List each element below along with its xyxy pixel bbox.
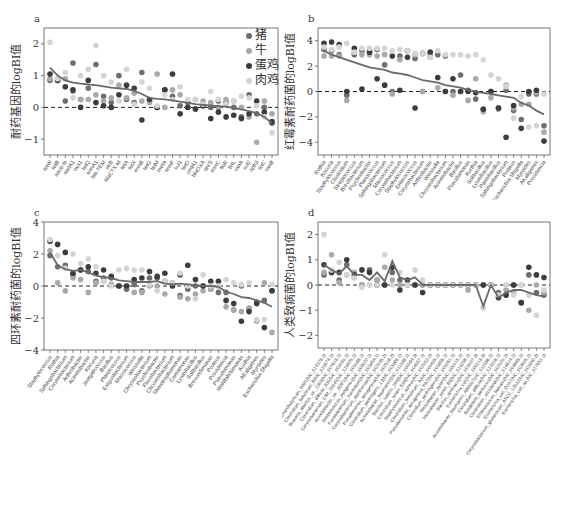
data-point	[139, 79, 145, 85]
data-point	[223, 298, 229, 304]
data-point	[344, 40, 350, 46]
data-point	[405, 54, 411, 60]
data-point	[321, 44, 327, 50]
data-point	[465, 98, 471, 104]
data-point	[526, 124, 532, 130]
data-point	[518, 94, 524, 100]
data-point	[352, 49, 358, 55]
data-point	[162, 87, 168, 93]
data-point	[503, 282, 509, 288]
data-point	[488, 72, 494, 78]
panel-b: b−4−2024红霉素耐药菌的logBI值RothiaKocuriaStaphy…	[282, 0, 564, 200]
data-point	[541, 129, 547, 135]
data-point	[262, 325, 268, 331]
data-point	[231, 113, 237, 119]
data-point	[511, 292, 517, 298]
y-tick-label: 2	[307, 61, 313, 72]
data-point	[389, 282, 395, 288]
data-point	[496, 76, 502, 82]
legend-item-broiler: 肉鸡	[246, 73, 279, 88]
data-point	[443, 52, 449, 58]
legend-item-layer: 蛋鸡	[246, 58, 279, 73]
data-point	[116, 98, 122, 104]
data-point	[435, 85, 441, 91]
y-tick-label: −1	[298, 305, 313, 316]
data-point	[154, 283, 160, 289]
y-tick-label: −2	[298, 111, 313, 122]
data-point	[397, 57, 403, 63]
data-point	[389, 91, 395, 97]
data-point	[193, 106, 199, 112]
data-point	[427, 49, 433, 55]
data-point	[216, 278, 222, 284]
data-point	[108, 79, 114, 85]
data-point	[541, 287, 547, 293]
data-point	[511, 282, 517, 288]
y-tick-label: 0	[307, 86, 313, 97]
data-point	[435, 75, 441, 81]
data-point	[70, 87, 76, 93]
data-point	[450, 93, 456, 99]
data-point	[336, 260, 342, 266]
data-point	[254, 98, 260, 104]
data-point	[85, 78, 91, 84]
data-point	[321, 232, 327, 238]
data-point	[450, 52, 456, 58]
data-point	[208, 278, 214, 284]
data-point	[193, 97, 199, 103]
data-point	[541, 138, 547, 144]
data-point	[269, 111, 275, 117]
data-point	[329, 39, 335, 45]
data-point	[231, 98, 237, 104]
data-point	[321, 53, 327, 59]
legend-dot-icon	[246, 33, 252, 39]
y-tick-label: 0	[307, 280, 313, 291]
data-point	[450, 76, 456, 82]
data-point	[541, 91, 547, 97]
y-tick-label: 4	[307, 35, 313, 46]
data-point	[382, 252, 388, 258]
y-axis-label: 耐药基因的logBI值	[9, 44, 23, 140]
data-point	[185, 105, 191, 111]
data-point	[78, 261, 84, 267]
data-point	[208, 116, 214, 122]
data-point	[534, 87, 540, 93]
data-point	[116, 267, 122, 273]
data-point	[420, 51, 426, 57]
data-point	[162, 270, 168, 276]
panel-label: a	[34, 13, 40, 24]
data-point	[101, 98, 107, 104]
data-point	[162, 105, 168, 111]
data-point	[47, 237, 53, 243]
data-point	[239, 282, 245, 288]
data-point	[246, 95, 252, 101]
data-point	[473, 52, 479, 58]
data-point	[382, 82, 388, 88]
data-point	[131, 267, 137, 273]
data-point	[154, 288, 160, 294]
data-point	[177, 84, 183, 90]
data-point	[458, 72, 464, 78]
data-point	[147, 275, 153, 281]
data-point	[397, 47, 403, 53]
data-point	[93, 43, 99, 49]
y-tick-label: 0	[33, 281, 39, 292]
data-point	[534, 272, 540, 278]
data-point	[526, 307, 532, 313]
data-point	[223, 97, 229, 103]
data-point	[511, 103, 517, 109]
data-point	[262, 317, 268, 323]
data-point	[458, 89, 464, 95]
y-tick-label: 0	[33, 102, 39, 113]
data-point	[93, 62, 99, 68]
legend: 猪 牛 蛋鸡 肉鸡	[246, 28, 279, 88]
data-point	[397, 87, 403, 93]
data-point	[55, 253, 61, 259]
data-point	[511, 115, 517, 121]
y-tick-label: −4	[24, 345, 39, 356]
data-point	[412, 51, 418, 57]
data-point	[481, 106, 487, 112]
y-tick-label: 2	[307, 229, 313, 240]
data-point	[518, 282, 524, 288]
data-point	[177, 294, 183, 300]
